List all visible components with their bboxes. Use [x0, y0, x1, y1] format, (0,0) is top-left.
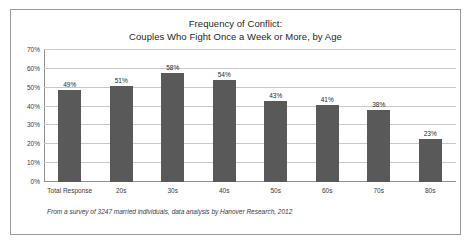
bar-value-label: 43% — [269, 92, 282, 99]
bar-value-label: 58% — [166, 64, 179, 71]
y-axis-tick-label: 40% — [27, 102, 40, 109]
bar: 41% — [316, 105, 339, 182]
bar-slot: 54% — [199, 50, 251, 182]
x-axis-tick-label: 40s — [199, 184, 251, 198]
y-axis-tick-label: 0% — [31, 178, 40, 185]
y-axis-tick-label: 70% — [27, 46, 40, 53]
bar: 58% — [161, 73, 184, 182]
bar-value-label: 38% — [372, 101, 385, 108]
x-axis-tick-label: 20s — [96, 184, 148, 198]
bar: 43% — [264, 101, 287, 182]
y-axis-tick-label: 50% — [27, 83, 40, 90]
x-axis-tick-label: 80s — [405, 184, 457, 198]
chart-title: Frequency of Conflict: Couples Who Fight… — [11, 18, 460, 43]
plot-area: 0%10%20%30%40%50%60%70% 49%51%58%54%43%4… — [44, 50, 456, 182]
y-axis-tick-label: 30% — [27, 121, 40, 128]
bar-value-label: 51% — [115, 77, 128, 84]
bar-value-label: 23% — [424, 130, 437, 137]
x-axis-tick-label: Total Response — [44, 184, 96, 198]
y-axis-tick-label: 60% — [27, 64, 40, 71]
bar-series: 49%51%58%54%43%41%38%23% — [44, 50, 456, 182]
bar: 38% — [367, 110, 390, 182]
bar-value-label: 41% — [321, 96, 334, 103]
bar: 54% — [213, 80, 236, 182]
chart-footnote: From a survey of 3247 married individual… — [47, 208, 292, 215]
y-axis-tick-label: 20% — [27, 140, 40, 147]
x-axis-tick-label: 60s — [302, 184, 354, 198]
bar: 51% — [110, 86, 133, 182]
x-axis-tick-label: 50s — [250, 184, 302, 198]
x-axis-tick-label: 30s — [147, 184, 199, 198]
chart-frame: Frequency of Conflict: Couples Who Fight… — [10, 9, 461, 235]
bar-value-label: 54% — [218, 71, 231, 78]
bar: 23% — [419, 139, 442, 182]
bar-slot: 43% — [250, 50, 302, 182]
chart-title-line-1: Frequency of Conflict: — [11, 18, 460, 31]
bar-slot: 41% — [302, 50, 354, 182]
chart-title-line-2: Couples Who Fight Once a Week or More, b… — [11, 31, 460, 44]
bar-slot: 51% — [96, 50, 148, 182]
bar: 49% — [58, 90, 81, 182]
x-axis-tick-label: 70s — [353, 184, 405, 198]
bar-slot: 58% — [147, 50, 199, 182]
bar-value-label: 49% — [63, 81, 76, 88]
bar-slot: 38% — [353, 50, 405, 182]
y-axis-tick-label: 10% — [27, 159, 40, 166]
x-axis-labels: Total Response20s30s40s50s60s70s80s — [44, 184, 456, 198]
bar-slot: 23% — [405, 50, 457, 182]
bar-slot: 49% — [44, 50, 96, 182]
